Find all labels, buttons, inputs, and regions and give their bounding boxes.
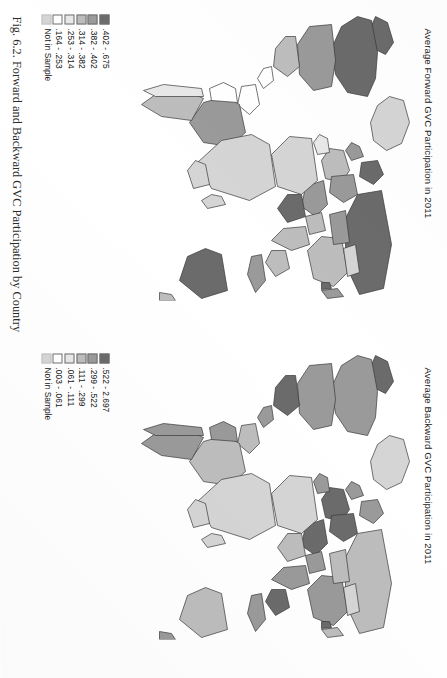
legend-item: Not in Sample bbox=[40, 353, 52, 420]
legend-label: .314 - .382 bbox=[75, 28, 87, 68]
legend-item: .522 - 2.697 bbox=[98, 353, 110, 420]
panel-title-forward: Average Forward GVC Participation in 201… bbox=[422, 28, 433, 218]
legend-item: .253 - .314 bbox=[63, 14, 75, 81]
legend-label: .164 - .253 bbox=[52, 28, 64, 68]
legend-label: .382 - .402 bbox=[86, 28, 98, 68]
legend-item: .402 - .675 bbox=[98, 14, 110, 81]
legend-swatch bbox=[99, 353, 109, 363]
legend-label: .061 - .111 bbox=[63, 367, 75, 406]
legend-item: .314 - .382 bbox=[75, 14, 87, 81]
choropleth-map-backward[interactable] bbox=[65, 343, 417, 639]
panel-title-backward: Average Backward GVC Participation in 20… bbox=[422, 367, 433, 564]
scanned-page: Average Forward GVC Participation in 201… bbox=[0, 0, 447, 678]
legend-swatch bbox=[41, 14, 51, 24]
legend-forward: .402 - .675 .382 - .402 .314 - .382 .253… bbox=[40, 14, 110, 81]
map-panel-backward: Average Backward GVC Participation in 20… bbox=[0, 339, 447, 639]
legend-label: .299 - .522 bbox=[86, 367, 98, 407]
legend-item: Not in Sample bbox=[40, 14, 52, 81]
choropleth-map-forward[interactable] bbox=[65, 4, 417, 300]
legend-item: .382 - .402 bbox=[86, 14, 98, 81]
legend-label: .402 - .675 bbox=[98, 28, 110, 68]
legend-label: .522 - 2.697 bbox=[98, 367, 110, 412]
legend-swatch bbox=[64, 353, 74, 363]
legend-swatch bbox=[87, 353, 97, 363]
legend-label: .111 - .299 bbox=[75, 367, 87, 406]
legend-item: .003 - .061 bbox=[52, 353, 64, 420]
legend-swatch bbox=[99, 14, 109, 24]
legend-swatch bbox=[76, 14, 86, 24]
legend-swatch bbox=[87, 14, 97, 24]
legend-label: .253 - .314 bbox=[63, 28, 75, 68]
legend-backward: .522 - 2.697 .299 - .522 .111 - .299 .06… bbox=[40, 353, 110, 420]
map-panel-forward: Average Forward GVC Participation in 201… bbox=[0, 0, 447, 339]
legend-label: Not in Sample bbox=[40, 367, 52, 420]
legend-label: .003 - .061 bbox=[52, 367, 64, 407]
map-svg-backward bbox=[65, 343, 417, 639]
legend-item: .164 - .253 bbox=[52, 14, 64, 81]
map-svg-forward bbox=[65, 4, 417, 300]
legend-swatch bbox=[52, 14, 62, 24]
legend-swatch bbox=[76, 353, 86, 363]
figure-caption: Fig. 6.2. Forward and Backward GVC Parti… bbox=[8, 16, 23, 332]
legend-swatch bbox=[52, 353, 62, 363]
legend-swatch bbox=[41, 353, 51, 363]
legend-item: .299 - .522 bbox=[86, 353, 98, 420]
legend-label: Not in Sample bbox=[40, 28, 52, 81]
legend-item: .061 - .111 bbox=[63, 353, 75, 420]
legend-item: .111 - .299 bbox=[75, 353, 87, 420]
legend-swatch bbox=[64, 14, 74, 24]
